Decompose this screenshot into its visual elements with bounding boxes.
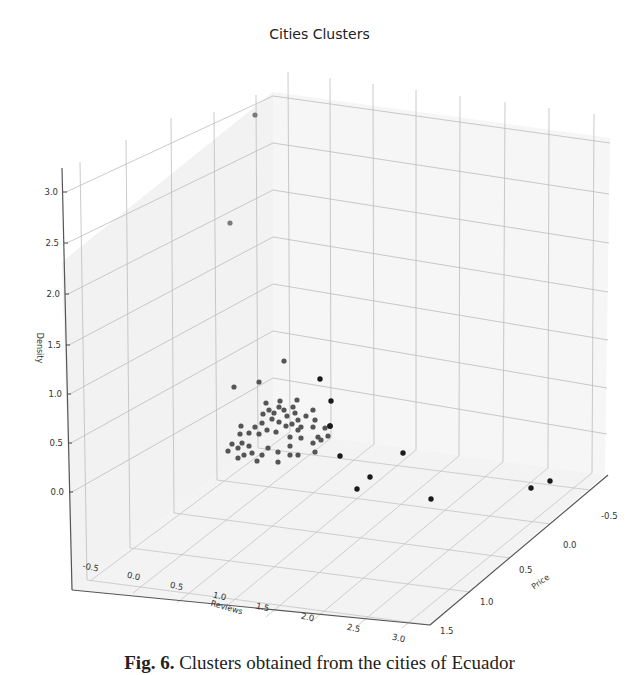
svg-text:0.5: 0.5 bbox=[519, 565, 533, 575]
back-right-pane bbox=[273, 92, 610, 475]
scatter3d-plot: 3.0 2.5 2.0 1.5 1.0 0.5 0.0 Density -0.5… bbox=[0, 0, 639, 675]
caption-label: Fig. 6. bbox=[124, 652, 174, 673]
svg-text:2.0: 2.0 bbox=[46, 289, 60, 299]
svg-text:0.0: 0.0 bbox=[563, 540, 577, 550]
svg-text:1.0: 1.0 bbox=[48, 389, 62, 399]
svg-text:1.5: 1.5 bbox=[47, 340, 61, 350]
svg-text:-0.5: -0.5 bbox=[601, 511, 618, 521]
price-axis-label: Price bbox=[530, 573, 551, 592]
caption-text: Clusters obtained from the cities of Ecu… bbox=[179, 652, 515, 673]
svg-text:0.0: 0.0 bbox=[50, 487, 64, 497]
svg-text:3.0: 3.0 bbox=[391, 632, 406, 645]
svg-text:1.5: 1.5 bbox=[440, 626, 454, 636]
density-axis-label: Density bbox=[35, 333, 44, 364]
figure-caption: Fig. 6. Clusters obtained from the citie… bbox=[0, 652, 639, 674]
svg-text:1.0: 1.0 bbox=[480, 597, 494, 607]
svg-text:2.0: 2.0 bbox=[300, 611, 315, 624]
svg-text:3.0: 3.0 bbox=[44, 187, 58, 197]
svg-text:2.5: 2.5 bbox=[45, 238, 59, 248]
svg-text:2.5: 2.5 bbox=[346, 622, 361, 635]
svg-text:1.5: 1.5 bbox=[255, 601, 270, 614]
svg-text:0.5: 0.5 bbox=[49, 438, 63, 448]
